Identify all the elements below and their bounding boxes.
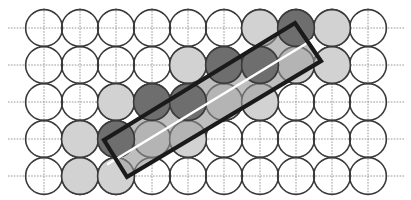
lattice-circle-r2-c9 [350,84,387,121]
lattice-circle-r3-c8 [314,121,351,158]
lattice-circle-r2-c8 [314,84,351,121]
lattice-circle-r2-c0 [26,84,63,121]
shaded-circle-light-0 [62,158,99,195]
lattice-circle-r1-c0 [26,47,63,84]
lattice-circle-r4-c6 [242,158,279,195]
lattice-circle-r0-c5 [206,10,243,47]
shaded-circle-light-10 [314,47,351,84]
lattice-circle-r4-c8 [314,158,351,195]
lattice-circle-r1-c3 [134,47,171,84]
lattice-circle-r1-c2 [98,47,135,84]
lattice-diagram-figure [0,0,411,200]
lattice-circle-r4-c4 [170,158,207,195]
lattice-circle-r4-c5 [206,158,243,195]
lattice-circle-r2-c7 [278,84,315,121]
lattice-circle-r4-c7 [278,158,315,195]
lattice-circle-r0-c4 [170,10,207,47]
lattice-circle-r0-c0 [26,10,63,47]
lattice-circle-r0-c3 [134,10,171,47]
lattice-circle-r2-c1 [62,84,99,121]
shaded-circle-light-12 [314,10,351,47]
lattice-circle-r0-c2 [98,10,135,47]
lattice-circle-r3-c9 [350,121,387,158]
lattice-circle-r3-c6 [242,121,279,158]
lattice-circle-r4-c9 [350,158,387,195]
lattice-circle-r0-c9 [350,10,387,47]
lattice-circle-r0-c1 [62,10,99,47]
shaded-circle-light-8 [170,47,207,84]
lattice-svg-canvas [0,0,411,200]
lattice-circle-r3-c7 [278,121,315,158]
lattice-circle-r4-c0 [26,158,63,195]
lattice-circle-r3-c0 [26,121,63,158]
shaded-circle-light-2 [62,121,99,158]
lattice-circle-r1-c1 [62,47,99,84]
lattice-circle-r1-c9 [350,47,387,84]
shaded-circle-light-5 [98,84,135,121]
